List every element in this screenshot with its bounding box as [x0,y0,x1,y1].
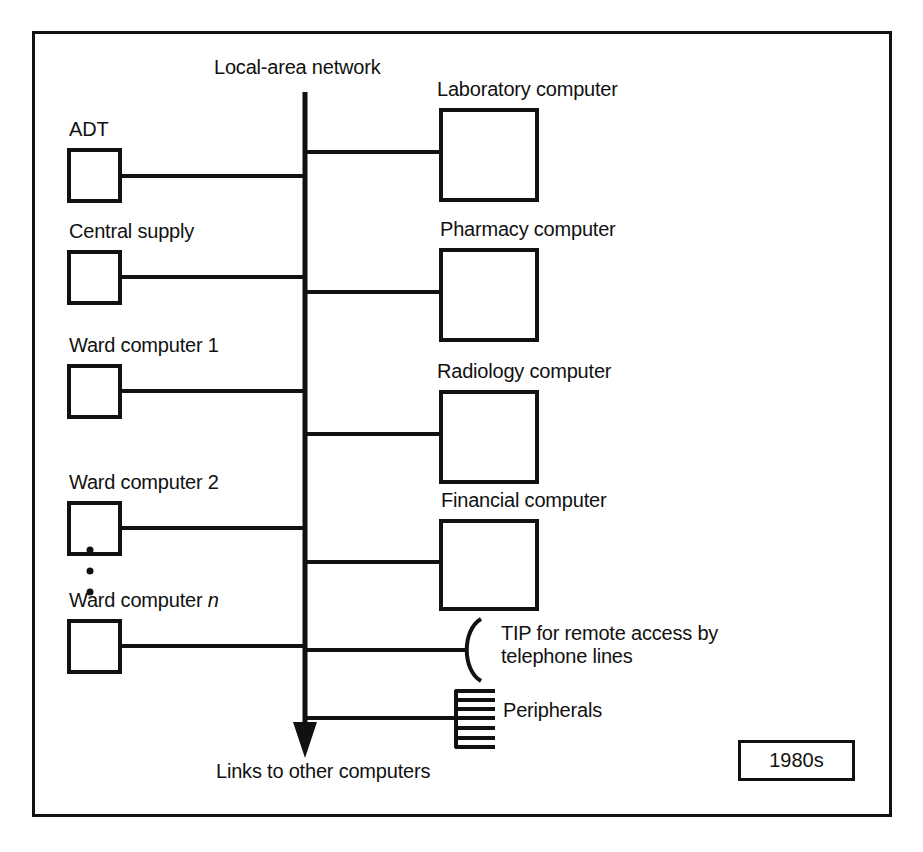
figure-canvas: Local-area network ADT Central supply Wa… [0,0,923,852]
label-pharmacy-computer: Pharmacy computer [440,218,616,241]
label-adt: ADT [69,118,108,141]
node-box-radiology-computer [441,392,537,482]
label-ward-computer-2: Ward computer 2 [69,471,219,494]
label-ward-computer-n: Ward computer n [69,589,219,612]
tip-arc-icon [467,619,481,681]
node-box-ward-1 [69,366,120,417]
ellipsis-dot [87,568,94,575]
node-box-pharmacy-computer [441,250,537,340]
node-box-ward-2 [69,503,120,554]
node-box-adt [69,150,120,201]
label-peripherals: Peripherals [503,699,602,722]
ellipsis-dot [87,547,94,554]
bus-arrowhead [293,722,317,758]
label-radiology-computer: Radiology computer [437,360,611,383]
label-laboratory-computer: Laboratory computer [437,78,618,101]
label-links-to-other-computers: Links to other computers [216,760,430,783]
label-ward-computer-n-index: n [208,589,219,611]
node-box-ward-n [69,621,120,672]
label-central-supply: Central supply [69,220,194,243]
node-box-laboratory-computer [441,110,537,200]
label-tip-line-2: telephone lines [501,645,633,667]
bus-label: Local-area network [214,56,381,79]
diagram-vector-layer [0,0,923,852]
node-box-central-supply [69,252,120,303]
node-box-financial-computer [441,521,537,609]
label-tip-remote-access: TIP for remote access bytelephone lines [501,622,781,668]
label-ward-computer-1: Ward computer 1 [69,334,219,357]
era-badge: 1980s [738,740,855,781]
label-tip-line-1: TIP for remote access by [501,622,718,644]
label-ward-computer-n-prefix: Ward computer [69,589,208,611]
label-financial-computer: Financial computer [441,489,606,512]
